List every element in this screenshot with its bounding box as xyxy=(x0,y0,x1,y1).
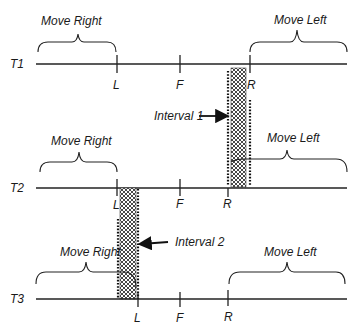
row-t2: T2 L F R Move Right Move Left xyxy=(10,131,347,212)
timeline-diagram: T1 L F R Move Right Move Left Interval 1… xyxy=(0,0,360,329)
row-label-t3: T3 xyxy=(10,292,24,306)
row-label-t1: T1 xyxy=(10,57,24,71)
tick-label-f-t2: F xyxy=(176,197,184,211)
move-left-label-t2: Move Left xyxy=(267,131,320,145)
interval-1-label: Interval 1 xyxy=(154,109,203,123)
interval-2-bar xyxy=(120,188,136,299)
tick-label-r-t1: R xyxy=(247,78,256,92)
row-t3: T3 L F R Move Right Move Left xyxy=(10,245,347,325)
move-left-brace-t2 xyxy=(231,150,347,172)
move-right-brace-t1 xyxy=(38,34,116,52)
move-right-label-t1: Move Right xyxy=(41,14,102,28)
tick-label-f-t1: F xyxy=(176,78,184,92)
move-right-label-t2: Move Right xyxy=(51,134,112,148)
interval-2-arrow xyxy=(141,242,168,244)
tick-label-r-t3: R xyxy=(224,310,233,324)
interval-2: Interval 2 xyxy=(118,188,225,299)
move-left-brace-t3 xyxy=(229,262,345,284)
interval-1: Interval 1 xyxy=(154,68,250,187)
move-left-label-t3: Move Left xyxy=(264,245,317,259)
interval-2-label: Interval 2 xyxy=(175,235,225,249)
row-label-t2: T2 xyxy=(10,181,24,195)
tick-label-r-t2: R xyxy=(223,197,232,211)
tick-label-f-t3: F xyxy=(176,311,184,325)
interval-1-bar xyxy=(231,68,246,187)
tick-label-l-t3: L xyxy=(134,311,141,325)
move-left-brace-t1 xyxy=(250,30,347,52)
move-right-brace-t2 xyxy=(40,152,117,172)
move-left-label-t1: Move Left xyxy=(274,13,327,27)
move-right-label-t3: Move Right xyxy=(60,245,121,259)
tick-label-l-t2: L xyxy=(113,198,120,212)
row-t1: T1 L F R Move Right Move Left xyxy=(10,13,347,92)
tick-label-l-t1: L xyxy=(113,78,120,92)
